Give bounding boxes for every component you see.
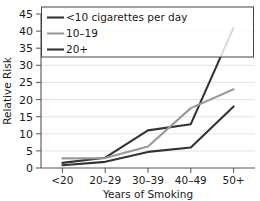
y-axis-title: Relative Risk	[1, 56, 13, 124]
relative-risk-line-chart: 45 40 35 30 25 20 15 10 5 0 Relative Ris…	[0, 0, 260, 201]
y-label-5: 5	[26, 145, 33, 158]
y-label-15: 15	[19, 111, 33, 124]
x-label-30-39: 30–39	[132, 174, 164, 186]
x-tick-labels: <20 20–29 30–39 40–49 50+	[51, 174, 244, 186]
x-label-50plus: 50+	[223, 174, 245, 186]
y-label-40: 40	[19, 25, 33, 38]
y-tick-labels: 45 40 35 30 25 20 15 10 5 0	[19, 8, 33, 175]
series-line-20-plus	[62, 106, 233, 165]
y-label-35: 35	[19, 42, 33, 55]
y-label-45: 45	[19, 8, 33, 21]
y-label-25: 25	[19, 76, 33, 89]
legend-item-under-10-cigarettes[interactable]: <10 cigarettes per day	[47, 11, 187, 23]
legend-label-under-10-cigarettes: <10 cigarettes per day	[66, 11, 187, 23]
y-label-0: 0	[26, 162, 33, 175]
chart-canvas: 45 40 35 30 25 20 15 10 5 0 Relative Ris…	[0, 0, 260, 201]
legend: <10 cigarettes per day 10–19 20+	[42, 7, 254, 57]
x-label-40-49: 40–49	[175, 174, 207, 186]
y-label-30: 30	[19, 59, 33, 72]
x-axis-title: Years of Smoking	[102, 188, 193, 200]
legend-label-10-19: 10–19	[66, 27, 98, 39]
x-label-under20: <20	[51, 174, 73, 186]
x-label-20-29: 20–29	[89, 174, 121, 186]
y-label-10: 10	[19, 128, 33, 141]
legend-label-20-plus: 20+	[66, 43, 88, 55]
y-label-20: 20	[19, 94, 33, 107]
